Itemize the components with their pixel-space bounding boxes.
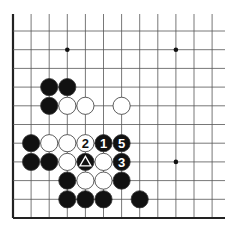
black-stone[interactable] [77,191,94,208]
move-number-label: 2 [82,136,89,151]
black-stone[interactable] [41,153,58,170]
white-stone[interactable] [95,153,112,170]
white-stone[interactable] [59,153,76,170]
white-stone[interactable] [77,97,94,114]
move-number-label: 5 [118,136,125,151]
black-stone[interactable] [23,153,40,170]
go-board-canvas[interactable]: 2153 [0,0,233,228]
black-stone[interactable] [59,191,76,208]
black-stone[interactable] [95,191,112,208]
star-point [174,160,179,165]
black-stone[interactable] [59,172,76,189]
star-point [174,47,179,52]
black-stone[interactable] [41,79,58,96]
black-stone[interactable] [59,79,76,96]
white-stone[interactable] [95,172,112,189]
star-point [65,47,70,52]
white-stone[interactable] [59,135,76,152]
white-stone[interactable] [41,135,58,152]
black-stone[interactable] [131,191,148,208]
black-stone[interactable] [41,97,58,114]
go-board: 2153 [0,0,233,228]
black-stone[interactable] [113,172,130,189]
move-number-label: 1 [100,136,107,151]
white-stone[interactable] [113,97,130,114]
white-stone[interactable] [59,97,76,114]
white-stone[interactable] [77,172,94,189]
black-stone[interactable] [23,135,40,152]
move-number-label: 3 [118,155,125,170]
